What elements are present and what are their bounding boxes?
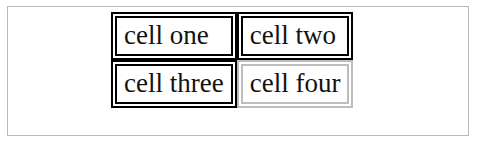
table-row: cell three cell four bbox=[111, 60, 353, 108]
table-cell-one: cell one bbox=[111, 12, 237, 60]
table-row: cell one cell two bbox=[111, 12, 353, 60]
table-cell-three: cell three bbox=[111, 60, 237, 108]
table-container: cell one cell two cell three cell four bbox=[111, 12, 353, 108]
two-by-two-cell-table: cell one cell two cell three cell four bbox=[111, 12, 353, 108]
page-canvas: cell one cell two cell three cell four bbox=[7, 6, 469, 136]
table-body: cell one cell two cell three cell four bbox=[111, 12, 353, 108]
table-cell-two: cell two bbox=[237, 12, 354, 60]
table-cell-four: cell four bbox=[237, 60, 354, 108]
